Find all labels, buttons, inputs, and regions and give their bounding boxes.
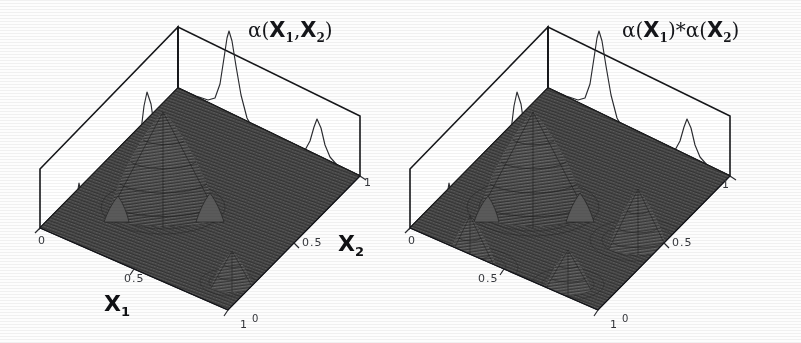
title-close-paren-2: ) xyxy=(732,18,740,42)
axis-label-x1: X1 xyxy=(104,291,130,319)
tick-x2-max: 1 xyxy=(364,176,372,189)
title-close-paren: ) xyxy=(325,18,333,42)
axis-label-x1-sub: 1 xyxy=(121,304,130,319)
title-var-x2: X xyxy=(707,18,723,42)
panel-title-left: α(X1,X2) xyxy=(248,18,333,45)
tick-x1-origin: 0 xyxy=(38,234,46,247)
title-var-x1: X xyxy=(643,18,659,42)
title-var-x2: X xyxy=(300,18,316,42)
tick-x1-max: 1 xyxy=(240,318,248,331)
title-sub-1: 1 xyxy=(660,31,668,45)
tick-x1-mid: 0.5 xyxy=(124,272,145,285)
axis-label-x2: X2 xyxy=(338,231,364,259)
title-var-x1: X xyxy=(269,18,285,42)
panel-title-right: α(X1)*α(X2) xyxy=(622,18,739,45)
tick-x1-mid: 0.5 xyxy=(478,272,499,285)
tick-x2-origin: 0 xyxy=(622,313,629,324)
figure-canvas: α(X1,X2) X1 X2 0 0.5 1 0 0.5 1 xyxy=(0,0,801,343)
title-sub-2: 2 xyxy=(316,31,324,45)
title-sub-2: 2 xyxy=(723,31,731,45)
title-alpha-1: α xyxy=(622,18,636,42)
tick-x1-origin: 0 xyxy=(408,234,416,247)
title-star: * xyxy=(676,18,686,42)
title-sub-1: 1 xyxy=(286,31,294,45)
axis-label-x2-sub: 2 xyxy=(355,244,364,259)
axis-label-x2-text: X xyxy=(338,231,355,256)
surface-svg-left xyxy=(0,0,400,343)
title-alpha-2: α xyxy=(686,18,700,42)
tick-x2-origin: 0 xyxy=(252,313,259,324)
surface-plot-left: α(X1,X2) X1 X2 0 0.5 1 0 0.5 1 xyxy=(0,0,400,343)
tick-x2-mid: 0.5 xyxy=(302,236,323,249)
tick-x2-max: 1 xyxy=(722,178,730,191)
title-open-paren-2: ( xyxy=(699,18,707,42)
tick-x1-max: 1 xyxy=(610,318,618,331)
tick-x2-mid: 0.5 xyxy=(672,236,693,249)
title-close-paren-1: ) xyxy=(668,18,676,42)
surface-svg-right xyxy=(400,0,800,343)
title-alpha: α xyxy=(248,18,262,42)
surface-plot-right: α(X1)*α(X2) 0 0.5 1 0 0.5 1 xyxy=(400,0,800,343)
axis-label-x1-text: X xyxy=(104,291,121,316)
